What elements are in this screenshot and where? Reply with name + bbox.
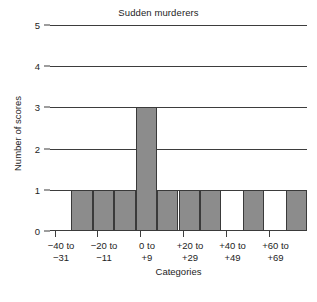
x-tick-label-2-line2: +9 <box>139 252 155 264</box>
x-tick-mark-5 <box>269 231 270 237</box>
x-tick-label-1-line2: −11 <box>91 252 118 264</box>
bar <box>114 190 135 231</box>
x-tick-label-2-line1: 0 to <box>139 240 155 252</box>
histogram-figure: Sudden murderers 5 4 3 2 1 0 Number of s… <box>0 0 317 302</box>
x-tick-mark-4 <box>226 231 227 237</box>
bar <box>71 190 92 231</box>
y-axis: 5 4 3 2 1 0 <box>0 25 50 231</box>
x-tick-mark-1 <box>97 231 98 237</box>
gridline-4 <box>50 66 307 67</box>
y-tick-label-5: 5 <box>35 20 40 31</box>
gridline-2 <box>50 149 307 150</box>
y-tick-label-4: 4 <box>35 61 40 72</box>
x-tick-label-1-line1: −20 to <box>91 240 118 252</box>
x-tick-label-4-line1: +40 to <box>219 240 246 252</box>
gridline-3 <box>50 107 307 108</box>
x-tick-label-3-line2: +29 <box>177 252 204 264</box>
y-axis-title: Number of scores <box>12 74 23 194</box>
x-tick-label-0-line2: −31 <box>48 252 75 264</box>
bar <box>179 190 200 231</box>
x-tick-label-5-line2: +69 <box>262 252 289 264</box>
bar <box>200 190 221 231</box>
x-tick-mark-2 <box>140 231 141 237</box>
x-axis-title: Categories <box>50 266 307 277</box>
x-tick-label-3: +20 to +29 <box>177 240 204 263</box>
x-tick-label-2: 0 to +9 <box>139 240 155 263</box>
bar <box>136 107 157 231</box>
gridline-5 <box>50 25 307 26</box>
x-tick-label-1: −20 to −11 <box>91 240 118 263</box>
y-tick-label-0: 0 <box>35 226 40 237</box>
x-tick-label-5-line1: +60 to <box>262 240 289 252</box>
x-tick-label-4: +40 to +49 <box>219 240 246 263</box>
bar <box>93 190 114 231</box>
y-tick-label-1: 1 <box>35 184 40 195</box>
x-tick-label-5: +60 to +69 <box>262 240 289 263</box>
x-tick-mark-0 <box>55 231 56 237</box>
x-tick-label-3-line1: +20 to <box>177 240 204 252</box>
bar <box>157 190 178 231</box>
x-tick-label-4-line2: +49 <box>219 252 246 264</box>
x-tick-mark-3 <box>183 231 184 237</box>
x-tick-label-0: −40 to −31 <box>48 240 75 263</box>
bar <box>243 190 264 231</box>
y-tick-label-3: 3 <box>35 102 40 113</box>
chart-title: Sudden murderers <box>0 7 317 18</box>
bar <box>286 190 307 231</box>
x-tick-label-0-line1: −40 to <box>48 240 75 252</box>
plot-area <box>50 25 307 231</box>
y-tick-label-2: 2 <box>35 143 40 154</box>
